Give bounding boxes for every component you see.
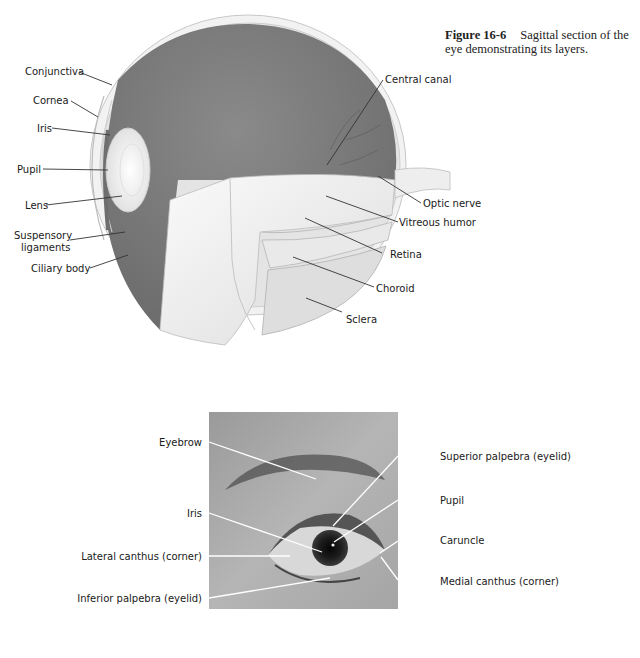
label-inferior-palpebra: Inferior palpebra (eyelid) [77,593,202,605]
label-suspensory-ligaments-line2: ligaments [21,242,70,254]
label-sclera: Sclera [346,314,377,326]
label-lateral-canthus: Lateral canthus (corner) [81,551,202,563]
label-conjunctiva: Conjunctiva [25,66,84,78]
label-cornea: Cornea [33,95,69,107]
label-medial-canthus: Medial canthus (corner) [440,576,559,588]
label-vitreous-humor: Vitreous humor [399,217,476,229]
label-central-canal: Central canal [385,74,451,86]
eyeball [90,15,450,345]
label-pupil: Pupil [17,164,41,176]
eye-photograph [209,412,398,609]
label-lens: Lens [25,200,48,212]
label-iris-photo: Iris [187,508,202,520]
label-eyebrow: Eyebrow [159,437,202,449]
label-iris: Iris [37,123,52,135]
label-ciliary-body: Ciliary body [31,263,90,275]
label-optic-nerve: Optic nerve [423,198,481,210]
label-pupil-photo: Pupil [440,495,464,507]
label-choroid: Choroid [376,283,415,295]
label-suspensory-ligaments-line1: Suspensory [14,230,72,242]
label-superior-palpebra: Superior palpebra (eyelid) [440,451,571,463]
label-caruncle: Caruncle [440,535,484,547]
label-retina: Retina [390,249,422,261]
